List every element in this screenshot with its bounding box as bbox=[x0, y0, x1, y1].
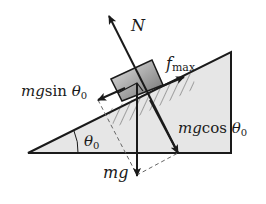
weight-label: mg bbox=[103, 163, 128, 182]
incline-force-diagram: N fmax mgsin θ0 mgcos θ0 mg θ0 bbox=[0, 0, 266, 204]
perp-component-label: mgcos θ0 bbox=[178, 119, 247, 138]
normal-force-label: N bbox=[130, 16, 146, 35]
parallel-component-label: mgsin θ0 bbox=[21, 82, 87, 101]
friction-label: fmax bbox=[165, 54, 196, 74]
